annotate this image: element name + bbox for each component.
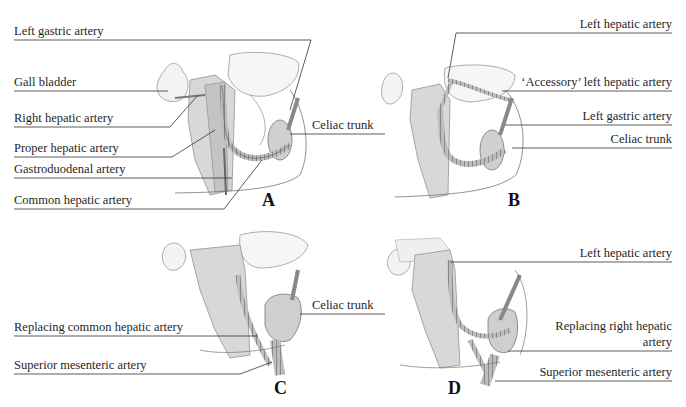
label-a-left-gastric-artery: Left gastric artery — [14, 24, 104, 38]
label-a-common-hepatic-artery: Common hepatic artery — [14, 193, 132, 207]
label-a-right-hepatic-artery: Right hepatic artery — [14, 111, 113, 125]
panel-d-drawing — [387, 238, 672, 385]
panel-letter-b: B — [508, 190, 520, 211]
label-b-celiac-trunk: Celiac trunk — [611, 132, 672, 146]
panel-letter-a: A — [262, 190, 275, 211]
label-d-replacing-right-hepatic-artery-line1: Replacing right hepatic — [555, 319, 672, 333]
arterial-variants-figure: Left gastric artery Gall bladder Right h… — [0, 0, 686, 407]
label-a-proper-hepatic-artery: Proper hepatic artery — [14, 141, 119, 155]
label-b-left-hepatic-artery: Left hepatic artery — [580, 17, 672, 31]
label-a-gall-bladder: Gall bladder — [14, 75, 76, 89]
label-d-left-hepatic-artery: Left hepatic artery — [580, 246, 672, 260]
label-b-accessory-left-hepatic-artery: ‘Accessory’ left hepatic artery — [521, 75, 672, 89]
label-d-superior-mesenteric-artery: Superior mesenteric artery — [539, 365, 672, 379]
label-a-gastroduodenal-artery: Gastroduodenal artery — [14, 162, 125, 176]
panel-letter-d: D — [448, 378, 461, 399]
label-a-celiac-trunk: Celiac trunk — [312, 118, 373, 132]
panel-letter-c: C — [274, 378, 287, 399]
label-c-replacing-common-hepatic-artery: Replacing common hepatic artery — [14, 320, 183, 334]
label-d-replacing-right-hepatic-artery-line2: artery — [643, 335, 672, 349]
label-c-celiac-trunk: Celiac trunk — [312, 298, 373, 312]
label-c-superior-mesenteric-artery: Superior mesenteric artery — [14, 358, 147, 372]
label-b-left-gastric-artery: Left gastric artery — [582, 109, 672, 123]
